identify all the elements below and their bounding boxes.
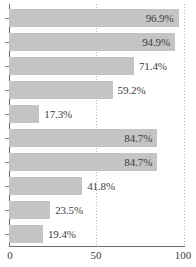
bar-value-label: 59.2%: [118, 84, 146, 96]
bar-chart: 96.9%94.9%71.4%59.2%17.3%84.7%84.7%41.8%…: [0, 0, 196, 267]
bar-row: 19.4%: [9, 225, 184, 243]
bar-value-label: 71.4%: [139, 60, 167, 72]
x-tick-label-50: 50: [91, 249, 102, 261]
bar[interactable]: [9, 177, 82, 195]
bar-value-label: 41.8%: [87, 180, 115, 192]
bar-row: 17.3%: [9, 105, 184, 123]
x-tick-label-0: 0: [7, 249, 13, 261]
bar-value-label: 19.4%: [48, 228, 76, 240]
bar-value-label: 23.5%: [55, 204, 83, 216]
bar-row: 96.9%: [9, 9, 184, 27]
gridline-100: [184, 4, 185, 247]
bar-row: 23.5%: [9, 201, 184, 219]
bar-value-label: 17.3%: [44, 108, 72, 120]
bar-value-label: 84.7%: [124, 132, 152, 144]
plot-area: 96.9%94.9%71.4%59.2%17.3%84.7%84.7%41.8%…: [9, 4, 184, 247]
bar-row: 41.8%: [9, 177, 184, 195]
bar-row: 59.2%: [9, 81, 184, 99]
bar-row: 94.9%: [9, 33, 184, 51]
bar[interactable]: [9, 105, 39, 123]
bar-value-label: 96.9%: [146, 12, 174, 24]
bar[interactable]: [9, 201, 50, 219]
bar[interactable]: [9, 225, 43, 243]
bar-value-label: 84.7%: [124, 156, 152, 168]
bar[interactable]: [9, 81, 113, 99]
bar[interactable]: [9, 57, 134, 75]
bar-row: 84.7%: [9, 129, 184, 147]
bar-row: 84.7%: [9, 153, 184, 171]
bar-row: 71.4%: [9, 57, 184, 75]
x-tick-label-100: 100: [175, 249, 192, 261]
bar-value-label: 94.9%: [142, 36, 170, 48]
